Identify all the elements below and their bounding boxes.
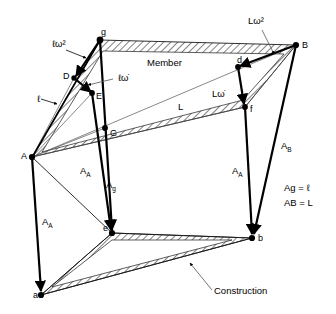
label-L-length: L bbox=[178, 101, 183, 112]
region-label-member: Member bbox=[147, 57, 182, 68]
point-label-d: d bbox=[237, 55, 242, 65]
node-D bbox=[71, 75, 76, 80]
label-l-omega-dot: ℓω̇ bbox=[118, 72, 129, 83]
point-label-G: G bbox=[110, 128, 117, 138]
node-e bbox=[109, 230, 115, 236]
point-label-A: A bbox=[21, 151, 27, 161]
label-l-length: ℓ bbox=[37, 93, 41, 104]
vector-A-A-right bbox=[245, 107, 252, 234]
kinematics-vector-diagram: A B g D E G d f e b a ℓω² ℓω̇ ℓ Lω² Lω̇ … bbox=[0, 0, 336, 314]
node-G bbox=[102, 125, 108, 131]
point-label-E: E bbox=[96, 91, 102, 101]
node-g bbox=[97, 37, 104, 44]
node-A bbox=[29, 154, 35, 160]
point-label-f: f bbox=[250, 104, 253, 114]
vector-A-A-left bbox=[32, 157, 41, 291]
node-B bbox=[293, 42, 299, 48]
label-l-omega-squared: ℓω² bbox=[52, 38, 66, 49]
node-E bbox=[89, 90, 95, 96]
point-label-D: D bbox=[63, 71, 70, 81]
node-b bbox=[249, 235, 255, 241]
leader-l-length bbox=[41, 99, 57, 104]
label-A-A-left: AA bbox=[42, 216, 53, 229]
diagram-canvas: A B g D E G d f e b a ℓω² ℓω̇ ℓ Lω² Lω̇ … bbox=[0, 0, 336, 314]
point-label-a: a bbox=[33, 290, 38, 300]
equation-Ag: Ag = ℓ bbox=[284, 182, 310, 193]
label-A-g: Ag bbox=[106, 179, 116, 193]
point-label-b: b bbox=[258, 233, 263, 243]
point-label-g: g bbox=[101, 27, 106, 37]
region-label-construction: Construction bbox=[214, 285, 267, 296]
leader-construction bbox=[190, 263, 212, 290]
point-label-B: B bbox=[302, 40, 308, 50]
label-A-B: AB bbox=[281, 140, 292, 153]
equation-AB: AB = L bbox=[284, 197, 313, 208]
frame-outline-lines bbox=[32, 157, 252, 295]
node-f bbox=[242, 104, 248, 110]
node-a bbox=[38, 292, 44, 298]
label-A-A-mid: AA bbox=[80, 165, 91, 178]
point-label-e: e bbox=[103, 223, 108, 233]
label-L-omega-squared: Lω² bbox=[248, 15, 264, 26]
label-A-A-right: AA bbox=[232, 165, 243, 178]
equation-annotations: Ag = ℓ AB = L bbox=[284, 182, 313, 208]
label-L-omega-dot: Lω̇ bbox=[212, 88, 226, 99]
leader-l-omega-sq bbox=[66, 50, 86, 58]
